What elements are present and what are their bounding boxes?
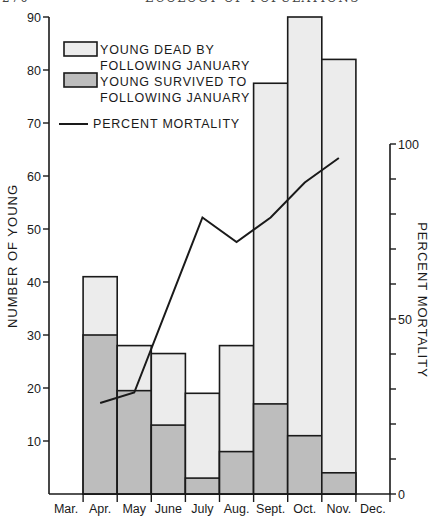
bar-dead xyxy=(288,17,322,494)
x-tick-label: July xyxy=(191,502,214,516)
bar-dead xyxy=(322,59,356,494)
y-tick-label: 70 xyxy=(27,117,41,131)
y-axis-title: NUMBER OF YOUNG xyxy=(5,184,20,328)
bar-survived xyxy=(220,452,254,494)
y-tick-label: 10 xyxy=(27,435,41,449)
y2-tick-label: 100 xyxy=(398,138,419,152)
x-tick-label: Sept. xyxy=(256,502,285,516)
x-tick-label: May xyxy=(122,502,146,516)
mortality-chart: 102030405060708090Mar.Apr.MayJuneJulyAug… xyxy=(0,0,435,518)
y2-axis-title: PERCENT MORTALITY xyxy=(415,222,430,378)
y-tick-label: 90 xyxy=(27,11,41,25)
legend-label-mortality: PERCENT MORTALITY xyxy=(93,117,240,131)
x-tick-label: Dec. xyxy=(360,502,386,516)
x-tick-label: Aug. xyxy=(224,502,250,516)
legend-label-survived: FOLLOWING JANUARY xyxy=(100,91,250,105)
y2-tick-label: 50 xyxy=(398,313,412,327)
legend-label-dead: FOLLOWING JANUARY xyxy=(100,59,250,73)
legend-swatch-survived xyxy=(64,73,97,87)
x-tick-label: Mar. xyxy=(54,502,78,516)
bar-survived xyxy=(151,425,185,494)
bar-survived xyxy=(117,391,151,494)
legend-swatch-dead xyxy=(64,42,97,56)
y2-tick-label: 0 xyxy=(398,488,405,502)
x-tick-label: June xyxy=(155,502,182,516)
legend-label-dead: YOUNG DEAD BY xyxy=(100,43,215,57)
bar-survived xyxy=(185,478,219,494)
y-tick-label: 40 xyxy=(27,276,41,290)
legend-label-survived: YOUNG SURVIVED TO xyxy=(100,75,247,89)
x-tick-label: Nov. xyxy=(326,502,351,516)
y-tick-label: 50 xyxy=(27,223,41,237)
x-tick-label: Apr. xyxy=(89,502,111,516)
bar-survived xyxy=(83,335,117,494)
y-tick-label: 80 xyxy=(27,64,41,78)
y-tick-label: 30 xyxy=(27,329,41,343)
bar-survived xyxy=(254,404,288,494)
y-tick-label: 60 xyxy=(27,170,41,184)
bar-survived xyxy=(288,436,322,494)
bar-survived xyxy=(322,473,356,494)
y-tick-label: 20 xyxy=(27,382,41,396)
x-tick-label: Oct. xyxy=(293,502,316,516)
legend: YOUNG DEAD BYFOLLOWING JANUARYYOUNG SURV… xyxy=(59,42,250,131)
